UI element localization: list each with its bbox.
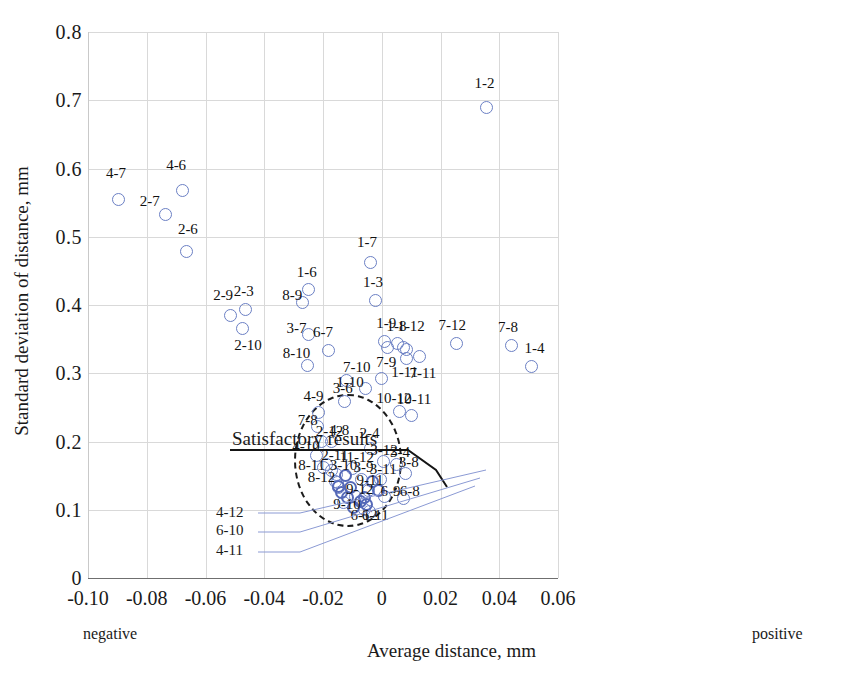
data-point-label: 2-10 (234, 337, 262, 352)
data-point (322, 344, 335, 357)
data-point-label: 6-9 (381, 483, 401, 498)
data-point (224, 309, 237, 322)
x-tick-label: 0.02 (423, 588, 458, 608)
data-point (338, 395, 351, 408)
leader-label: 4-11 (216, 542, 243, 559)
data-point (405, 409, 418, 422)
y-tick-label: 0.1 (56, 500, 83, 520)
y-tick-label: 0.6 (56, 159, 83, 179)
data-point (301, 359, 314, 372)
data-point (236, 322, 249, 335)
data-point (480, 101, 493, 114)
gridline-horizontal (88, 305, 558, 306)
y-tick-label: 0.4 (56, 295, 83, 315)
data-point-label: 6-8 (400, 484, 420, 499)
y-axis-title: Standard deviation of distance, mm (11, 91, 33, 511)
y-tick-label: 0.5 (56, 227, 83, 247)
data-point (180, 245, 193, 258)
satisfactory-results-label: Satisfactory results (232, 428, 377, 450)
y-tick-label: 0.7 (56, 90, 83, 110)
data-point (239, 303, 252, 316)
data-point-label: 7-12 (439, 318, 467, 333)
y-axis-line (88, 32, 89, 578)
data-point-label: 4-6 (166, 158, 186, 173)
y-tick-label: 0.8 (56, 22, 83, 42)
data-point (450, 337, 463, 350)
x-axis-ticks: -0.10-0.08-0.06-0.04-0.0200.020.040.06 (0, 588, 857, 616)
data-point-label: 2-9 (213, 288, 233, 303)
data-point-label: 3-6 (333, 380, 353, 395)
y-tick-label: 0.3 (56, 363, 83, 383)
data-point-label: 1-4 (525, 340, 545, 355)
gridline-vertical (558, 32, 559, 578)
data-point-label: 2-7 (140, 193, 160, 208)
data-point-label: 8-10 (283, 345, 311, 360)
data-point (159, 208, 172, 221)
data-point-label: 4-9 (304, 389, 324, 404)
y-tick-label: 0 (72, 568, 83, 588)
data-point-label: 1-2 (475, 75, 495, 90)
data-point-label: 3-7 (287, 321, 307, 336)
data-point-label: 8-9 (282, 288, 302, 303)
x-axis-line (88, 578, 558, 579)
data-point-label: 1-3 (363, 274, 383, 289)
data-point (176, 184, 189, 197)
y-tick-label: 0.2 (56, 432, 83, 452)
data-point (364, 256, 377, 269)
x-tick-label: 0.04 (482, 588, 517, 608)
gridline-horizontal (88, 373, 558, 374)
positive-end-label: positive (752, 625, 803, 643)
data-point-label: 7-10 (343, 360, 371, 375)
data-point (393, 405, 406, 418)
x-tick-label: -0.10 (67, 588, 109, 608)
leader-label: 6-10 (216, 522, 244, 539)
data-point-label: 6-11 (362, 508, 389, 523)
gridline-horizontal (88, 169, 558, 170)
data-point (413, 350, 426, 363)
data-point-label: 2-3 (234, 284, 254, 299)
data-point-label: 8-12 (308, 469, 336, 484)
gridline-horizontal (88, 32, 558, 33)
data-point (525, 360, 538, 373)
data-point (505, 339, 518, 352)
x-axis-title: Average distance, mm (0, 640, 857, 662)
data-point-label: 1-7 (357, 235, 377, 250)
x-tick-label: -0.06 (185, 588, 227, 608)
x-tick-label: 0.06 (541, 588, 576, 608)
data-point-label: 1-12 (397, 319, 425, 334)
gridline-horizontal (88, 237, 558, 238)
data-point (302, 283, 315, 296)
data-point (375, 372, 388, 385)
data-point-label: 2-6 (178, 221, 198, 236)
data-point-label: 9-12 (346, 481, 374, 496)
x-tick-label: -0.08 (126, 588, 168, 608)
x-tick-label: -0.02 (302, 588, 344, 608)
data-point-label: 7-8 (498, 319, 518, 334)
data-point-label: 6-7 (313, 324, 333, 339)
chart-figure: 00.10.20.30.40.50.60.70.8 4-72-74-62-62-… (0, 0, 857, 683)
data-point-label: 10-11 (397, 392, 431, 407)
x-axis-title-text: Average distance, mm (367, 640, 536, 662)
data-point-label: 7-11 (409, 366, 436, 381)
x-tick-label: 0 (377, 588, 387, 608)
data-point-label: 4-7 (106, 166, 126, 181)
negative-end-label: negative (83, 625, 137, 643)
leader-label: 4-12 (216, 504, 244, 521)
data-point-label: 3-8 (399, 454, 419, 469)
data-point-label: 1-6 (297, 264, 317, 279)
x-tick-label: -0.04 (243, 588, 285, 608)
plot-area: 4-72-74-62-62-92-32-108-91-63-78-106-71-… (88, 32, 558, 578)
data-point (112, 193, 125, 206)
